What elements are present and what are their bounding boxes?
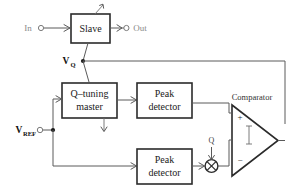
schematic-canvas: In Slave Out V Q Q–tuning	[0, 0, 296, 191]
svg-text:V: V	[63, 56, 70, 66]
wire-vq-to-master	[83, 61, 89, 82]
svg-text:REF: REF	[23, 130, 36, 137]
output-port-label: Out	[133, 23, 147, 33]
block-peak-detector-top-label-1: Peak	[155, 88, 174, 99]
svg-text:V: V	[16, 125, 23, 135]
svg-text:Q: Q	[71, 61, 76, 68]
vref-port-label: V REF	[16, 125, 36, 137]
wire-vref-to-master	[53, 99, 61, 130]
comparator-plus-label: +	[237, 112, 242, 122]
multiply-icon	[205, 160, 218, 173]
diagonal-tuning-arrow-icon	[95, 4, 104, 14]
block-q-tuning-master-label-2: master	[76, 101, 103, 112]
block-peak-detector-bottom-label-2: detector	[148, 167, 181, 178]
input-port-label: In	[24, 23, 32, 33]
wire-peak-top-to-comparator-plus	[192, 103, 229, 113]
down-tuning-arrow-icon	[101, 118, 107, 132]
signal-label-vq: V Q	[63, 56, 76, 68]
comparator-label: Comparator	[232, 92, 273, 102]
block-slave-label: Slave	[79, 23, 102, 34]
block-diagram-figure: In Slave Out V Q Q–tuning	[0, 0, 296, 191]
vref-terminal-icon	[37, 127, 42, 132]
wire-vref-to-peak-bottom	[53, 130, 136, 166]
wire-multiplier-to-comparator-minus	[218, 140, 229, 166]
signal-label-q: Q	[209, 136, 215, 145]
block-peak-detector-bottom-label-1: Peak	[155, 154, 174, 165]
block-peak-detector-top-label-2: detector	[148, 101, 181, 112]
block-q-tuning-master-label-1: Q–tuning	[71, 88, 109, 99]
output-terminal-icon	[124, 25, 129, 30]
wire-slave-to-vq	[83, 43, 88, 61]
input-terminal-icon	[38, 25, 43, 30]
comparator-minus-label: −	[237, 155, 242, 165]
